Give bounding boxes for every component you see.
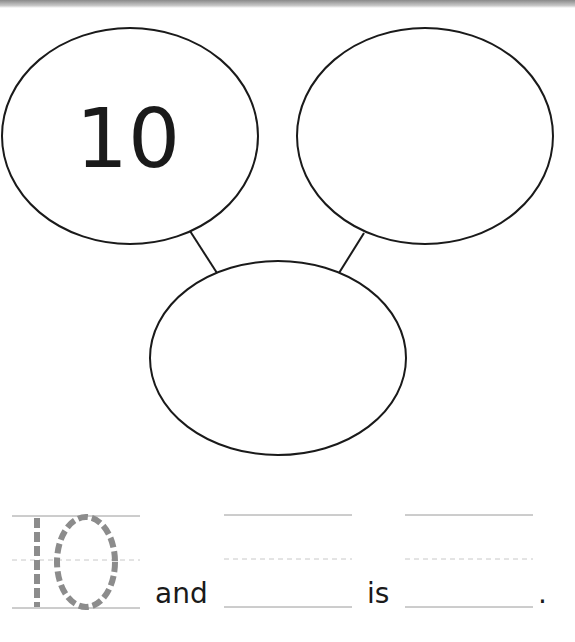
connector-right [339, 233, 364, 273]
number-bond-diagram: 10 [0, 0, 575, 642]
writing-guide-blank-1[interactable] [224, 515, 352, 607]
writing-guide-blank-2[interactable] [405, 515, 533, 607]
word-is: is [367, 577, 389, 610]
top-left-circle-value: 10 [76, 91, 180, 186]
traced-digit-zero [57, 517, 115, 607]
sentence-period: . [538, 577, 547, 610]
writing-guide-traced [12, 516, 140, 608]
word-and: and [155, 577, 208, 610]
top-right-circle[interactable] [297, 28, 553, 244]
connector-left [190, 231, 217, 273]
bottom-circle[interactable] [150, 261, 406, 455]
